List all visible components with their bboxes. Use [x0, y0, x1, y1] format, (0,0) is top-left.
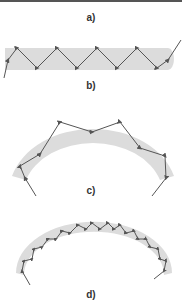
panel-b-label: b) — [81, 80, 101, 91]
panel-b-straight-fiber-diagram — [0, 38, 182, 78]
panel-a-label: a) — [81, 12, 101, 23]
panel-d-thin-bent-fiber-diagram — [0, 215, 182, 290]
panel-d-label: d) — [81, 289, 101, 300]
panel-c-label: c) — [81, 185, 101, 196]
top-border — [0, 0, 182, 2]
